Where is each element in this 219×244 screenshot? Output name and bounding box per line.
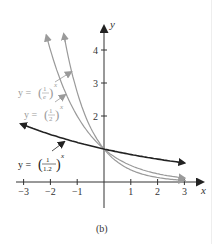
svg-text:): ) — [55, 107, 59, 122]
svg-text:e: e — [43, 93, 46, 101]
x-tick-label: 2 — [155, 186, 160, 197]
svg-text:(: ( — [38, 85, 42, 100]
label-one-over-1-2: y = ( 1 1.2 ) x — [18, 152, 65, 173]
curve-1 — [46, 36, 184, 178]
y-axis-label: y — [109, 18, 115, 30]
svg-text:x: x — [53, 81, 58, 89]
x-tick-label: 1 — [128, 186, 133, 197]
exponential-decay-chart: −3−2−1123 234 x y y = ( 1 e ) x y = ( 1 … — [0, 0, 219, 244]
x-tick-label: −2 — [45, 186, 56, 197]
label-one-over-e: y = ( 1 e ) x — [18, 81, 58, 101]
svg-text:x: x — [60, 152, 65, 160]
pointer-2 — [55, 95, 65, 102]
figure-caption: (b) — [96, 223, 108, 235]
svg-text:(: ( — [44, 107, 48, 122]
pointer-12 — [52, 142, 64, 151]
svg-text:1: 1 — [46, 156, 50, 164]
label-one-over-2: y = ( 1 2 ) x — [24, 103, 64, 123]
x-tick-label: −1 — [72, 186, 83, 197]
svg-text:2: 2 — [49, 115, 53, 123]
svg-text:): ) — [49, 85, 53, 100]
y-ticks: 234 — [93, 45, 107, 122]
y-tick-label: 2 — [93, 111, 98, 122]
svg-text:x: x — [59, 103, 64, 111]
svg-text:y =: y = — [18, 87, 32, 98]
x-tick-label: −3 — [18, 186, 29, 197]
svg-text:1: 1 — [43, 85, 47, 93]
y-tick-label: 3 — [93, 78, 98, 89]
svg-text:1.2: 1.2 — [43, 165, 52, 173]
x-axis-label: x — [200, 184, 206, 196]
svg-text:y =: y = — [24, 109, 38, 120]
svg-text:1: 1 — [49, 107, 53, 115]
y-tick-label: 4 — [93, 45, 98, 56]
curve-0 — [64, 34, 185, 180]
svg-text:y =: y = — [18, 159, 32, 170]
x-tick-label: 3 — [182, 186, 187, 197]
